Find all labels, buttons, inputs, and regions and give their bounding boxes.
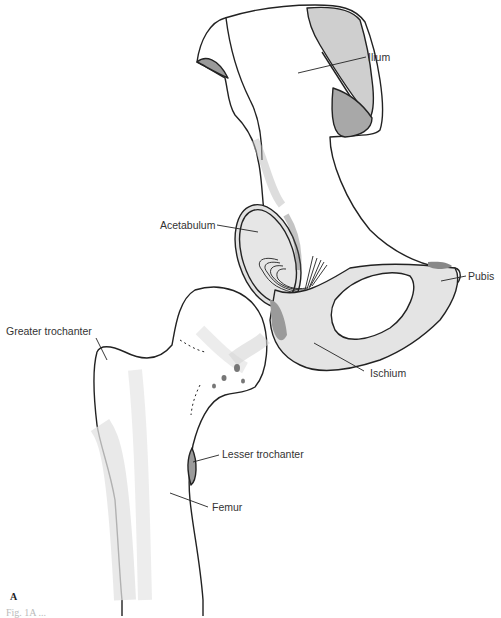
label-ischium: Ischium <box>370 367 406 379</box>
panel-label: A <box>10 591 17 602</box>
figure-caption: Fig. 1A ... <box>6 607 46 618</box>
label-ilium: Ilium <box>368 51 390 63</box>
label-greater-trochanter: Greater trochanter <box>6 325 92 337</box>
label-acetabulum: Acetabulum <box>160 219 215 231</box>
label-pubis: Pubis <box>468 270 494 282</box>
label-femur: Femur <box>212 501 242 513</box>
label-lesser-trochanter: Lesser trochanter <box>222 448 304 460</box>
